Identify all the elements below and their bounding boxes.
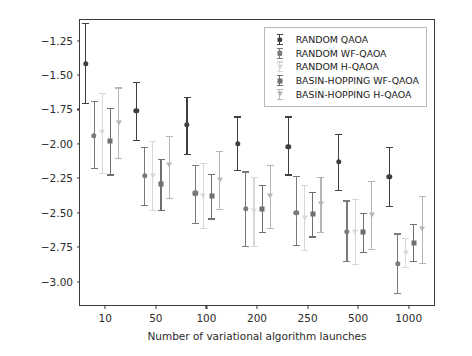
errorbar-cap (200, 163, 207, 164)
errorbar-cap (309, 236, 316, 237)
errorbar-cap (402, 267, 409, 268)
errorbar-point (367, 181, 376, 250)
data-marker (403, 250, 409, 255)
data-marker (369, 213, 375, 218)
errorbar-cap (251, 177, 258, 178)
data-marker (150, 173, 156, 178)
legend-marker-icon (270, 74, 290, 87)
errorbar-cap (216, 209, 223, 210)
data-marker (294, 210, 299, 215)
data-marker (411, 241, 416, 246)
y-tick-label: −2.00 (41, 138, 80, 150)
legend-item[interactable]: RANDOM QAOA (270, 33, 419, 47)
errorbar-cap (293, 176, 300, 177)
x-tick-label: 200 (247, 312, 267, 324)
errorbar-cap (259, 185, 266, 186)
data-marker (336, 159, 341, 164)
errorbar-cap (99, 93, 106, 94)
errorbar-point (114, 87, 123, 159)
errorbar-cap (352, 199, 359, 200)
data-marker (395, 261, 400, 266)
x-tick-label: 100 (196, 312, 216, 324)
data-marker (352, 230, 358, 235)
data-marker (142, 173, 147, 178)
errorbar-cap (133, 82, 140, 83)
legend-label: BASIN-HOPPING WF-QAOA (296, 75, 419, 86)
data-marker (302, 216, 308, 221)
legend-label: RANDOM QAOA (296, 34, 368, 45)
errorbar-cap (360, 213, 367, 214)
errorbar-cap (115, 158, 122, 159)
errorbar-cap (158, 159, 165, 160)
errorbar-cap (410, 224, 417, 225)
x-tick-mark (155, 305, 156, 309)
x-tick-mark (358, 305, 359, 309)
errorbar-cap (208, 218, 215, 219)
errorbar-cap (335, 134, 342, 135)
legend-marker-icon (270, 33, 290, 46)
data-marker (260, 206, 265, 211)
errorbar-cap (208, 174, 215, 175)
errorbar-cap (386, 206, 393, 207)
data-marker (108, 139, 113, 144)
errorbar-cap (115, 87, 122, 88)
x-tick-mark (206, 305, 207, 309)
errorbar-cap (192, 165, 199, 166)
x-axis-label: Number of variational algorithm launches (79, 330, 435, 342)
errorbar-cap (200, 228, 207, 229)
errorbar-point (316, 177, 325, 233)
data-marker (285, 144, 290, 149)
data-marker (217, 177, 223, 182)
errorbar-point (233, 116, 242, 171)
errorbar-cap (166, 136, 173, 137)
errorbar-cap (267, 228, 274, 229)
errorbar-cap (343, 261, 350, 262)
errorbar-cap (402, 238, 409, 239)
errorbar-point (165, 136, 174, 199)
legend-label: RANDOM H-QAOA (296, 61, 379, 72)
y-tick-label: −1.75 (41, 103, 80, 115)
data-marker (200, 194, 206, 199)
errorbar-cap (184, 154, 191, 155)
x-tick-mark (105, 305, 106, 309)
y-tick-label: −2.75 (41, 241, 80, 253)
errorbar-cap (293, 245, 300, 246)
errorbar-cap (394, 293, 401, 294)
y-tick-label: −1.50 (41, 69, 80, 81)
errorbar-point (385, 147, 394, 208)
errorbar-cap (192, 223, 199, 224)
data-marker (361, 230, 366, 235)
data-marker (91, 133, 96, 138)
errorbar-cap (419, 196, 426, 197)
errorbar-stem (169, 136, 170, 199)
errorbar-cap (386, 147, 393, 148)
errorbar-cap (394, 233, 401, 234)
data-marker (193, 191, 198, 196)
data-marker (251, 209, 257, 214)
errorbar-cap (141, 147, 148, 148)
errorbar-cap (360, 252, 367, 253)
y-tick-label: −2.50 (41, 207, 80, 219)
errorbar-cap (301, 250, 308, 251)
x-tick-mark (408, 305, 409, 309)
x-tick-mark (256, 305, 257, 309)
x-tick-label: 50 (149, 312, 162, 324)
errorbar-cap (368, 249, 375, 250)
errorbar-point (284, 116, 293, 175)
legend-item[interactable]: BASIN-HOPPING H-QAOA (270, 87, 419, 101)
errorbar-cap (267, 165, 274, 166)
data-marker (318, 202, 324, 207)
legend-item[interactable]: RANDOM H-QAOA (270, 60, 419, 74)
legend-item[interactable]: RANDOM WF-QAOA (270, 47, 419, 61)
data-marker (134, 108, 139, 113)
legend-marker-icon (270, 60, 290, 73)
data-marker (99, 129, 105, 134)
errorbar-cap (242, 246, 249, 247)
data-marker (209, 194, 214, 199)
errorbar-cap (301, 185, 308, 186)
data-marker (235, 141, 240, 146)
legend-item[interactable]: BASIN-HOPPING WF-QAOA (270, 74, 419, 88)
errorbar-cap (234, 116, 241, 117)
errorbar-cap (259, 232, 266, 233)
errorbar-cap (242, 171, 249, 172)
